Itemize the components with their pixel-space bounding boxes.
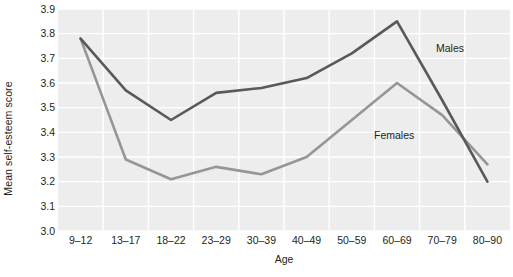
chart-figure: Mean self-esteem score 3.03.13.23.33.43.… xyxy=(0,0,513,277)
x-tick-label: 9–12 xyxy=(69,233,92,247)
series-label-females: Females xyxy=(374,129,414,141)
x-tick-label: 80–90 xyxy=(473,233,502,247)
y-tick-label: 3.8 xyxy=(5,28,55,39)
y-axis-tick-labels: 3.03.13.23.33.43.53.63.73.83.9 xyxy=(0,9,55,231)
y-tick-label: 3.3 xyxy=(5,152,55,163)
series-label-males: Males xyxy=(436,42,464,54)
x-tick-label: 70–79 xyxy=(428,233,457,247)
x-tick-label: 60–69 xyxy=(382,233,411,247)
x-tick-label: 18–22 xyxy=(156,233,185,247)
y-tick-label: 3.0 xyxy=(5,226,55,237)
x-axis-tick-labels: 9–1213–1718–2223–2930–3940–4950–5960–697… xyxy=(58,233,510,249)
y-tick-label: 3.9 xyxy=(5,4,55,15)
y-tick-label: 3.1 xyxy=(5,201,55,212)
vertical-gridlines xyxy=(103,9,465,231)
x-tick-label: 13–17 xyxy=(111,233,140,247)
y-tick-label: 3.4 xyxy=(5,127,55,138)
x-tick-label: 40–49 xyxy=(292,233,321,247)
x-axis-title: Age xyxy=(58,253,510,265)
y-tick-label: 3.2 xyxy=(5,176,55,187)
x-tick-label: 50–59 xyxy=(337,233,366,247)
x-tick-label: 23–29 xyxy=(202,233,231,247)
plot-area: Males Females xyxy=(58,9,510,231)
y-tick-label: 3.7 xyxy=(5,53,55,64)
y-tick-label: 3.5 xyxy=(5,102,55,113)
y-tick-label: 3.6 xyxy=(5,78,55,89)
x-tick-label: 30–39 xyxy=(247,233,276,247)
